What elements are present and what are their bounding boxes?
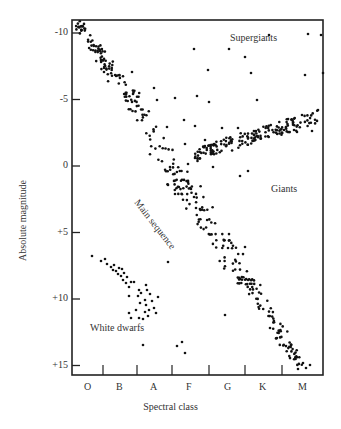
y-tick-label: +10 xyxy=(52,292,68,303)
hr-diagram-plot xyxy=(0,0,341,429)
giants-label: Giants xyxy=(271,183,297,194)
data-points xyxy=(75,20,325,370)
white-dwarfs-label: White dwarfs xyxy=(90,322,144,333)
y-axis-ticks xyxy=(72,33,80,366)
y-tick-label: +5 xyxy=(57,226,68,237)
x-axis-title: Spectral class xyxy=(0,401,341,412)
y-tick-label: -10 xyxy=(55,26,68,37)
x-tick-label-m: M xyxy=(298,381,307,392)
y-tick-label: 0 xyxy=(63,159,68,170)
x-tick-label-a: A xyxy=(150,381,157,392)
supergiants-label: Supergiants xyxy=(230,32,277,43)
x-tick-label-b: B xyxy=(116,381,123,392)
x-tick-label-g: G xyxy=(224,381,231,392)
x-axis-ticks xyxy=(103,365,282,375)
y-axis-title: Absolute magnitude xyxy=(17,166,28,276)
x-tick-label-o: O xyxy=(84,381,91,392)
x-tick-label-k: K xyxy=(259,381,266,392)
y-tick-label: +15 xyxy=(52,359,68,370)
x-tick-label-f: F xyxy=(186,381,192,392)
y-tick-label: -5 xyxy=(60,93,68,104)
